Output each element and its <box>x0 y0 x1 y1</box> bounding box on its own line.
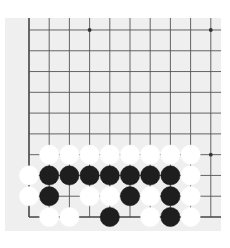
white-stone-icon[interactable] <box>40 145 59 164</box>
star-point-icon <box>88 28 92 32</box>
black-stone-icon[interactable] <box>80 166 99 185</box>
black-stone-icon[interactable] <box>40 166 59 185</box>
white-stone-icon[interactable] <box>80 145 99 164</box>
black-stone-icon[interactable] <box>161 207 180 226</box>
white-stone-icon[interactable] <box>40 207 59 226</box>
white-stone-icon[interactable] <box>60 145 79 164</box>
black-stone-icon[interactable] <box>120 187 139 206</box>
black-stone-icon[interactable] <box>40 187 59 206</box>
white-stone-icon[interactable] <box>120 145 139 164</box>
white-stone-icon[interactable] <box>141 207 160 226</box>
go-board[interactable] <box>0 0 230 248</box>
black-stone-icon[interactable] <box>100 166 119 185</box>
black-stone-icon[interactable] <box>100 207 119 226</box>
white-stone-icon[interactable] <box>100 145 119 164</box>
white-stone-icon[interactable] <box>60 207 79 226</box>
black-stone-icon[interactable] <box>141 166 160 185</box>
black-stone-icon[interactable] <box>161 166 180 185</box>
white-stone-icon[interactable] <box>100 187 119 206</box>
white-stone-icon[interactable] <box>181 187 200 206</box>
white-stone-icon[interactable] <box>181 207 200 226</box>
go-board-canvas[interactable] <box>0 0 230 248</box>
white-stone-icon[interactable] <box>141 187 160 206</box>
white-stone-icon[interactable] <box>181 166 200 185</box>
white-stone-icon[interactable] <box>161 145 180 164</box>
white-stone-icon[interactable] <box>181 145 200 164</box>
black-stone-icon[interactable] <box>120 166 139 185</box>
star-point-icon <box>209 28 213 32</box>
white-stone-icon[interactable] <box>141 145 160 164</box>
white-stone-icon[interactable] <box>19 166 38 185</box>
white-stone-icon[interactable] <box>19 187 38 206</box>
black-stone-icon[interactable] <box>60 166 79 185</box>
star-point-icon <box>209 153 213 157</box>
black-stone-icon[interactable] <box>161 187 180 206</box>
white-stone-icon[interactable] <box>80 187 99 206</box>
